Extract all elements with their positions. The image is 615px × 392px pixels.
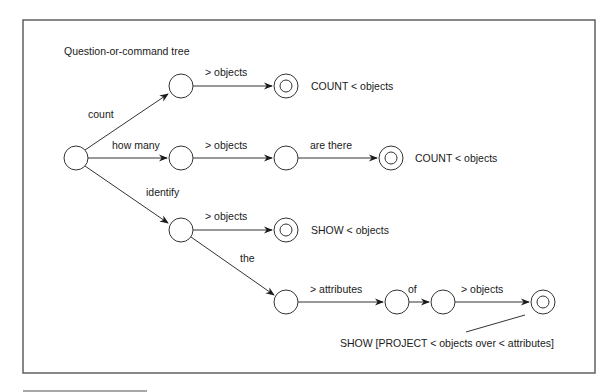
label-mid-objects: > objects <box>205 139 247 151</box>
output-pointer-line <box>466 315 525 332</box>
label-of: of <box>408 283 417 295</box>
label-count: count <box>88 108 114 120</box>
node-of <box>431 290 455 314</box>
node-attributes <box>385 290 409 314</box>
node-how-many-objects <box>274 146 298 170</box>
label-attributes: > attributes <box>310 283 362 295</box>
final-node-count-top <box>274 74 298 98</box>
label-identify: identify <box>146 186 180 198</box>
output-count-mid: COUNT < objects <box>415 152 497 164</box>
diagram-title: Question-or-command tree <box>64 45 190 57</box>
output-show-objects: SHOW < objects <box>311 224 389 236</box>
node-how-many <box>169 146 193 170</box>
output-count-top: COUNT < objects <box>311 80 393 92</box>
label-are-there: are there <box>310 139 352 151</box>
final-node-show-project <box>531 290 555 314</box>
start-node <box>64 146 88 170</box>
output-show-project: SHOW [PROJECT < objects over < attribute… <box>340 337 554 349</box>
node-count <box>169 74 193 98</box>
label-bottom-objects: > objects <box>461 283 503 295</box>
label-how-many: how many <box>112 139 161 151</box>
label-id-objects: > objects <box>205 210 247 222</box>
final-node-count-mid <box>379 146 403 170</box>
label-the: the <box>240 252 255 264</box>
final-node-show <box>274 218 298 242</box>
node-identify <box>169 218 193 242</box>
edge-the <box>191 237 274 295</box>
node-the <box>274 290 298 314</box>
question-command-tree-diagram: Question-or-command tree count how many … <box>0 0 615 392</box>
label-top-objects: > objects <box>205 66 247 78</box>
